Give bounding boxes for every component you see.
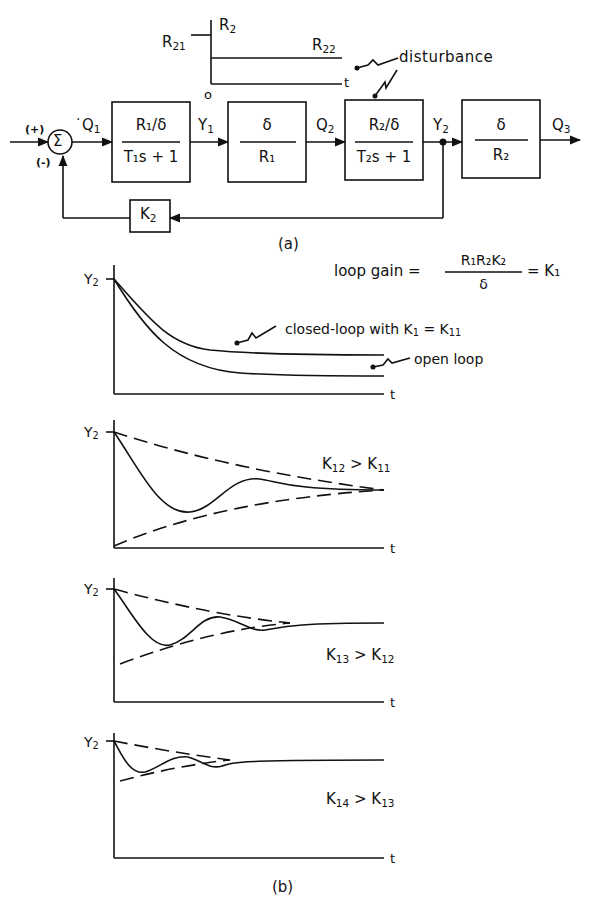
block4-numerator: δ: [462, 118, 540, 133]
inset-origin: o: [204, 88, 212, 101]
panel2-y-label: Y2: [84, 425, 99, 441]
caption-b: (b): [272, 880, 293, 895]
plus-sign: (+): [25, 124, 44, 135]
block3-denominator: T₂s + 1: [345, 150, 423, 165]
panel3-t-label: t: [390, 696, 395, 709]
signal-q2: Q2: [316, 118, 335, 134]
k13-annotation: K13 > K12: [326, 648, 395, 664]
loop-gain-label: loop gain =: [334, 264, 421, 279]
panel2-t-label: t: [390, 542, 395, 555]
panel4-t-label: t: [390, 852, 395, 865]
panel1-t-label: t: [390, 388, 395, 401]
minus-sign: (-): [36, 157, 51, 168]
loop-gain-rhs: = K₁: [527, 264, 560, 279]
signal-y1: Y1: [198, 118, 214, 134]
loop-gain-denominator: δ: [445, 277, 522, 291]
signal-y2: Y2: [433, 118, 449, 134]
summing-junction: Σ: [53, 134, 62, 149]
block2-denominator: R₁: [228, 150, 306, 165]
block2-numerator: δ: [228, 118, 306, 133]
closed-loop-label: closed-loop with K1 = K11: [285, 322, 461, 338]
block3-numerator: R₂/δ: [345, 118, 423, 133]
open-loop-label: open loop: [414, 352, 483, 366]
signal-q1: ̇Q1: [82, 118, 101, 134]
panel4-y-label: Y2: [84, 735, 99, 751]
figure-canvas: [0, 0, 597, 921]
inset-r22: R22: [312, 38, 336, 54]
loop-gain-numerator: R₁R₂K₂: [445, 253, 522, 267]
inset-r21: R21: [162, 35, 186, 51]
takeoff-point: [440, 139, 447, 146]
block4-denominator: R₂: [462, 148, 540, 163]
inset-r2: R2: [219, 18, 236, 34]
panel1-y-label: Y2: [84, 272, 99, 288]
block1-numerator: R₁/δ: [112, 118, 190, 133]
caption-a: (a): [278, 237, 299, 252]
panel3-y-label: Y2: [84, 582, 99, 598]
k14-annotation: K14 > K13: [326, 792, 395, 808]
k12-annotation: K12 > K11: [322, 457, 391, 473]
feedback-gain-k2: K2: [140, 207, 157, 223]
signal-q3: Q3: [552, 118, 571, 134]
block1-denominator: T₁s + 1: [112, 150, 190, 165]
inset-t: t: [344, 76, 349, 89]
disturbance-label: disturbance: [399, 50, 493, 65]
